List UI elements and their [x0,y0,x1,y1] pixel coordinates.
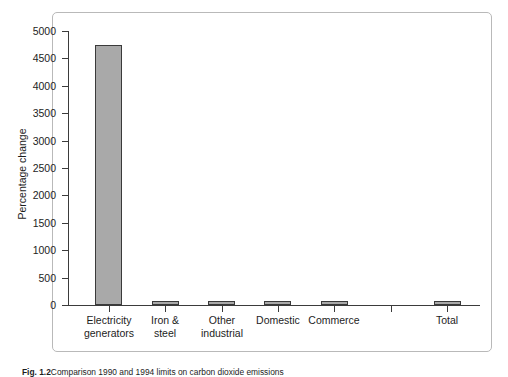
figure-frame [52,12,492,352]
caption-text: Comparison 1990 and 1994 limits on carbo… [51,367,284,377]
y-axis-title: Percentage change [16,114,28,234]
figure-caption: Fig. 1.2Comparison 1990 and 1994 limits … [22,367,492,377]
caption-label: Fig. 1.2 [22,367,51,377]
